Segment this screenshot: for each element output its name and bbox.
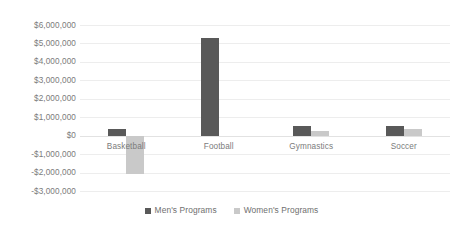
x-axis-tick-label: Basketball — [80, 142, 173, 151]
plot-area — [80, 25, 450, 191]
y-axis-tick-label: $5,000,000 — [0, 39, 76, 48]
legend-item: Men's Programs — [145, 206, 217, 215]
legend-item: Women's Programs — [234, 206, 319, 215]
x-axis-tick-label: Soccer — [358, 142, 451, 151]
bar-men — [201, 38, 219, 136]
bar-women — [404, 129, 422, 136]
bar-women — [311, 131, 329, 136]
bar-men — [386, 126, 404, 135]
legend-swatch-icon — [234, 208, 240, 214]
y-axis-tick-label: $1,000,000 — [0, 113, 76, 122]
legend-label: Men's Programs — [155, 206, 217, 215]
bar-group — [265, 25, 358, 191]
y-axis-labels: $6,000,000$5,000,000$4,000,000$3,000,000… — [0, 0, 76, 232]
gridline — [80, 191, 450, 192]
y-axis-tick-label: $4,000,000 — [0, 57, 76, 66]
y-axis-tick-label: -$2,000,000 — [0, 168, 76, 177]
y-axis-tick-label: -$1,000,000 — [0, 150, 76, 159]
x-axis-tick-label: Gymnastics — [265, 142, 358, 151]
bar-group — [358, 25, 451, 191]
legend-swatch-icon — [145, 208, 151, 214]
y-axis-tick-label: $3,000,000 — [0, 76, 76, 85]
y-axis-tick-label: -$3,000,000 — [0, 187, 76, 196]
bar-men — [293, 126, 311, 135]
x-axis-tick-label: Football — [173, 142, 266, 151]
chart-legend: Men's ProgramsWomen's Programs — [0, 206, 463, 215]
y-axis-tick-label: $2,000,000 — [0, 94, 76, 103]
legend-label: Women's Programs — [244, 206, 319, 215]
bar-men — [108, 129, 126, 136]
bar-group — [80, 25, 173, 191]
bar-group — [173, 25, 266, 191]
y-axis-tick-label: $0 — [0, 131, 76, 140]
bar-chart: $6,000,000$5,000,000$4,000,000$3,000,000… — [0, 0, 463, 232]
y-axis-tick-label: $6,000,000 — [0, 21, 76, 30]
